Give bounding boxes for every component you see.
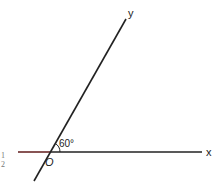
- diagram-lines: [0, 0, 223, 192]
- side-mark-2: 2: [1, 161, 5, 169]
- x-axis-label: x: [206, 147, 212, 158]
- origin-label: O: [45, 157, 54, 168]
- side-mark-1: 1: [1, 152, 5, 160]
- angle-label: 60°: [59, 139, 74, 149]
- angle-diagram: y x O 60° 1 2: [0, 0, 223, 192]
- y-axis-label: y: [128, 8, 134, 19]
